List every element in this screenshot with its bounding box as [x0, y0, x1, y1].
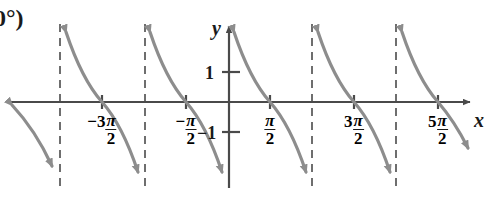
denominator: 2 [105, 129, 116, 147]
fraction: π 2 [353, 112, 364, 148]
x-tick-label-pi-over-2: π 2 [264, 112, 275, 148]
cotangent-branch-partial [12, 105, 52, 166]
y-tick-label-1: 1 [205, 64, 214, 82]
x-tick-label-3pi-over-2: 3 π 2 [344, 112, 364, 148]
numerator: π [105, 112, 116, 129]
y-axis-label: y [212, 18, 221, 38]
cotangent-graph-figure: 0°) [0, 0, 504, 200]
fraction: π 2 [437, 112, 448, 148]
fraction: π 2 [264, 112, 275, 148]
plot-canvas [0, 0, 504, 200]
denominator: 2 [185, 129, 196, 147]
y-tick-label-minus1: −1 [197, 124, 216, 142]
coefficient: 3 [344, 112, 353, 132]
numerator: π [353, 112, 364, 129]
x-tick-label--3pi-over-2: − 3 π 2 [87, 112, 116, 148]
denominator: 2 [437, 129, 448, 147]
minus-sign: − [176, 112, 186, 132]
x-tick-label-5pi-over-2: 5 π 2 [428, 112, 448, 148]
coefficient: 5 [428, 112, 437, 132]
numerator: π [264, 112, 275, 129]
x-tick-label--pi-over-2: − π 2 [176, 112, 197, 148]
numerator: π [185, 112, 196, 129]
fraction: π 2 [105, 112, 116, 148]
fraction: π 2 [185, 112, 196, 148]
minus-sign: − [87, 112, 97, 132]
denominator: 2 [353, 129, 364, 147]
x-axis-label: x [474, 110, 484, 130]
denominator: 2 [264, 129, 275, 147]
numerator: π [437, 112, 448, 129]
coefficient: 3 [97, 112, 106, 132]
